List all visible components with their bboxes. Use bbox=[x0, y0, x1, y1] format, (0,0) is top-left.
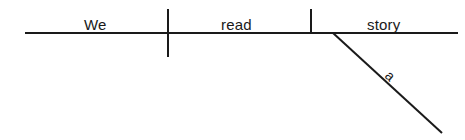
word-direct-object: story bbox=[367, 17, 401, 32]
word-verb: read bbox=[221, 17, 252, 32]
sentence-diagram-canvas: We read story a bbox=[0, 0, 465, 140]
word-subject: We bbox=[84, 17, 107, 32]
